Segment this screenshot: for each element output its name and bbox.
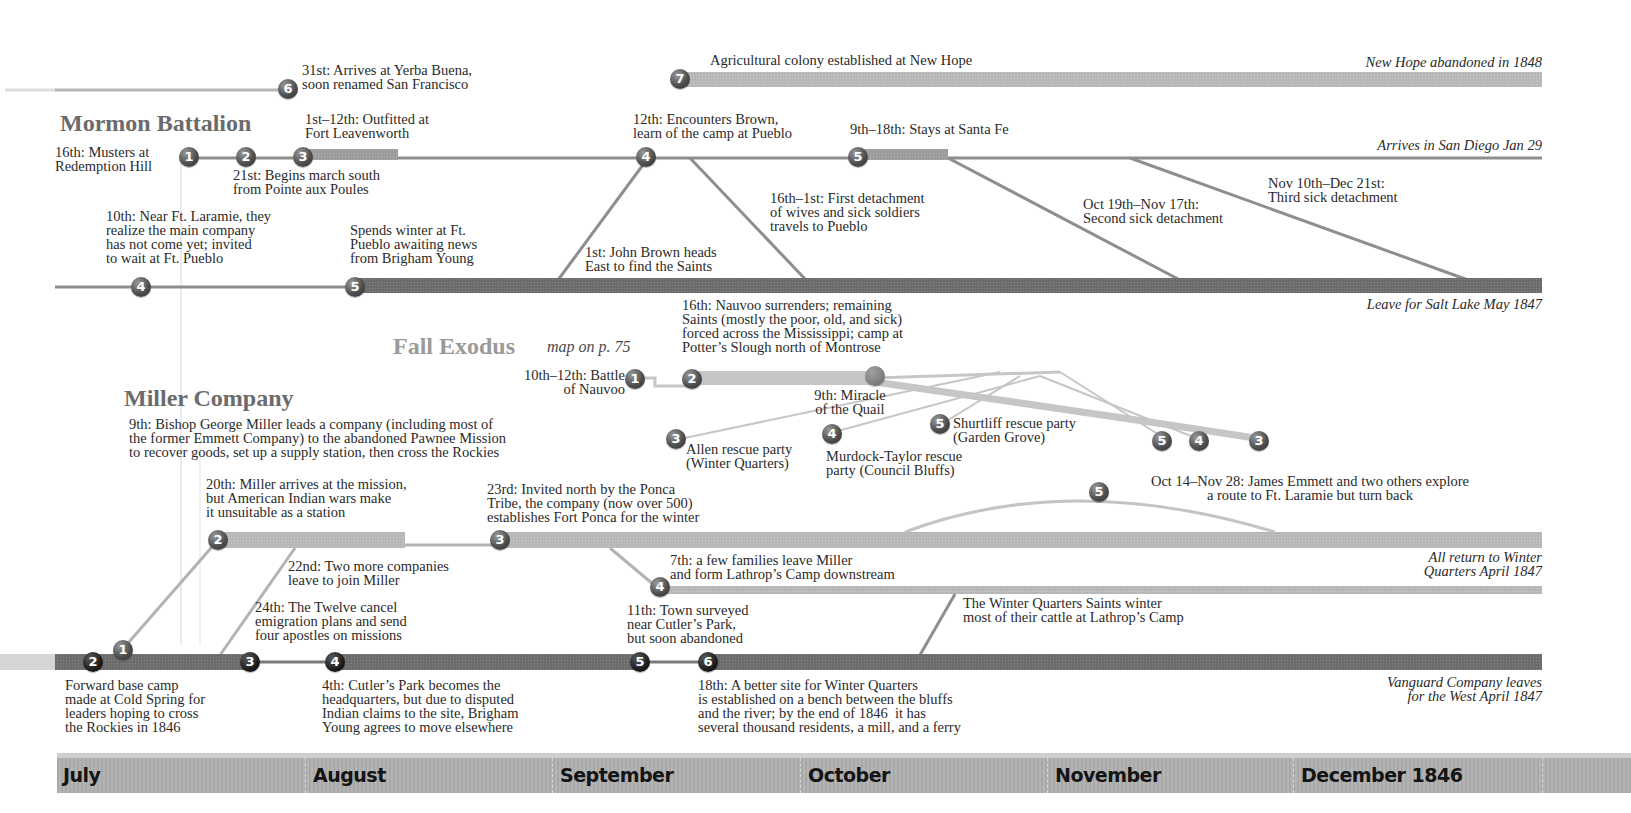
timeline-diagram: Mormon Battalion 6 31st: Arrives at Yerb…: [0, 0, 1631, 813]
cattle-note: The Winter Quarters Saints winter most o…: [963, 596, 1184, 624]
event-marker-battalion-4: 4: [636, 147, 656, 167]
join-note: 22nd: Two more companies leave to join M…: [288, 559, 449, 587]
month-divider: [800, 758, 801, 793]
event-label-battalion-6: 31st: Arrives at Yerba Buena, soon renam…: [302, 63, 472, 91]
return-marker-3: 3: [1249, 431, 1269, 451]
end-label-salt-lake: Leave for Salt Lake May 1847: [1240, 297, 1542, 311]
quail-marker: [865, 366, 885, 386]
month-divider: [1047, 758, 1048, 793]
map-reference: map on p. 75: [547, 338, 631, 356]
event-marker-exodus-5: 5: [930, 414, 950, 434]
event-label-pueblo-4: 10th: Near Ft. Laramie, they realize the…: [106, 209, 271, 265]
month-divider: [552, 758, 553, 793]
detachment-label-first: 16th–1st: First detachment of wives and …: [770, 191, 925, 233]
event-label-battalion-2: 21st: Begins march south from Pointe aux…: [233, 168, 380, 196]
event-marker-exodus-3: 3: [666, 429, 686, 449]
month-september: September: [560, 764, 673, 786]
month-november: November: [1055, 764, 1161, 786]
event-marker-miller-4: 4: [650, 577, 670, 597]
event-label-miller-5: Oct 14–Nov 28: James Emmett and two othe…: [1100, 474, 1520, 502]
event-label-battalion-7: Agricultural colony established at New H…: [710, 53, 972, 67]
event-label-wq-5: 11th: Town surveyed near Cutler’s Park, …: [627, 603, 748, 645]
event-label-miller-4: 7th: a few families leave Miller and for…: [670, 553, 895, 581]
event-label-battalion-5: 9th–18th: Stays at Santa Fe: [850, 122, 1009, 136]
event-marker-wq-3: 3: [240, 652, 260, 672]
event-marker-exodus-4: 4: [822, 424, 842, 444]
event-marker-battalion-7: 7: [670, 69, 690, 89]
event-marker-battalion-2: 2: [236, 147, 256, 167]
section-title-mormon-battalion: Mormon Battalion: [60, 110, 251, 137]
month-divider: [1293, 758, 1294, 793]
event-marker-wq-5: 5: [630, 652, 650, 672]
event-label-miller-3: 23rd: Invited north by the Ponca Tribe, …: [487, 482, 699, 524]
event-label-battalion-1: 16th: Musters at Redemption Hill: [55, 145, 152, 173]
return-marker-4: 4: [1189, 431, 1209, 451]
event-marker-wq-2: 2: [83, 652, 103, 672]
event-label-exodus-4: Murdock-Taylor rescue party (Council Blu…: [826, 449, 962, 477]
event-marker-battalion-6: 6: [278, 79, 298, 99]
event-marker-exodus-1: 1: [625, 369, 645, 389]
event-marker-battalion-5: 5: [848, 147, 868, 167]
quail-note: 9th: Miracle of the Quail: [780, 388, 920, 416]
end-label-winter-quarters-return: All return to Winter Quarters April 1847: [1300, 550, 1542, 578]
miller-intro: 9th: Bishop George Miller leads a compan…: [129, 417, 506, 459]
event-label-wq-3: 24th: The Twelve cancel emigration plans…: [255, 600, 407, 642]
section-title-miller-company: Miller Company: [124, 385, 294, 412]
event-label-exodus-3: Allen rescue party (Winter Quarters): [686, 442, 792, 470]
event-marker-pueblo-4: 4: [131, 277, 151, 297]
event-label-pueblo-5: Spends winter at Ft. Pueblo awaiting new…: [350, 223, 477, 265]
event-marker-exodus-2: 2: [682, 369, 702, 389]
event-label-miller-2: 20th: Miller arrives at the mission, but…: [206, 477, 407, 519]
event-label-exodus-2: 16th: Nauvoo surrenders; remaining Saint…: [682, 298, 903, 354]
end-label-vanguard: Vanguard Company leaves for the West Apr…: [1280, 675, 1542, 703]
month-october: October: [808, 764, 890, 786]
event-marker-miller-3: 3: [490, 530, 510, 550]
month-august: August: [313, 764, 386, 786]
event-label-battalion-4: 12th: Encounters Brown, learn of the cam…: [633, 112, 792, 140]
detachment-label-second: Oct 19th–Nov 17th: Second sick detachmen…: [1083, 197, 1223, 225]
brown-note: 1st: John Brown heads East to find the S…: [585, 245, 717, 273]
detachment-label-third: Nov 10th–Dec 21st: Third sick detachment: [1268, 176, 1398, 204]
event-marker-miller-1: 1: [113, 640, 133, 660]
event-label-battalion-3: 1st–12th: Outfitted at Fort Leavenworth: [305, 112, 429, 140]
end-label-san-diego: Arrives in San Diego Jan 29: [1240, 138, 1542, 152]
event-label-exodus-5: Shurtliff rescue party (Garden Grove): [953, 416, 1076, 444]
end-label-new-hope: New Hope abandoned in 1848: [1240, 55, 1542, 69]
month-july: July: [63, 764, 101, 786]
event-marker-battalion-1: 1: [179, 147, 199, 167]
section-title-fall-exodus: Fall Exodus: [393, 333, 515, 360]
event-marker-wq-6: 6: [698, 652, 718, 672]
month-divider: [1542, 758, 1543, 793]
event-marker-battalion-3: 3: [293, 147, 313, 167]
month-december: December 1846: [1301, 764, 1462, 786]
event-label-exodus-1: 10th–12th: Battle of Nauvoo: [460, 368, 625, 396]
month-divider: [305, 758, 306, 793]
month-axis: July August September October November D…: [57, 753, 1631, 793]
return-marker-5: 5: [1152, 431, 1172, 451]
event-marker-pueblo-5: 5: [345, 277, 365, 297]
event-marker-wq-4: 4: [325, 652, 345, 672]
event-label-wq-4: 4th: Cutler’s Park becomes the headquart…: [322, 678, 519, 734]
event-label-wq-6: 18th: A better site for Winter Quarters …: [698, 678, 961, 734]
event-marker-miller-2: 2: [208, 530, 228, 550]
event-label-wq-2: Forward base camp made at Cold Spring fo…: [65, 678, 205, 734]
